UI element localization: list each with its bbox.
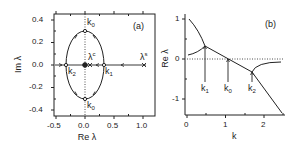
arrow-icon <box>74 92 77 96</box>
panel-b-upper-branch <box>189 19 205 46</box>
k-subscript: 2 <box>253 88 256 94</box>
panel-b-xtick-0: 0 <box>184 121 188 129</box>
point-k0-top <box>83 29 86 32</box>
panel-b-xtick-2: 2 <box>261 121 265 129</box>
arrow-icon <box>93 92 96 96</box>
k-subscript: 1 <box>110 71 113 77</box>
panel-b-xtick-1: 1 <box>223 121 227 129</box>
panel-a-xtick-2: 0.5 <box>107 122 118 130</box>
k-subscript: 1 <box>206 88 209 94</box>
panel-b-ytick-0: 1 <box>175 15 179 23</box>
panel-a-k1-label: k1 <box>105 67 113 77</box>
panel-a-xtick-3: 1.0 <box>136 122 147 130</box>
panel-b-lower-branch <box>188 46 205 55</box>
panel-a-ytick-2: 0.0 <box>32 61 43 69</box>
k-subscript: 0 <box>92 22 95 28</box>
panel-b-ylabel: Re λ <box>161 49 170 68</box>
lambda-superscript: s <box>145 51 148 57</box>
k-subscript: 0 <box>92 105 95 111</box>
panel-a-lambda-s-label: λs <box>140 51 148 62</box>
panel-a-xlabel: Re λ <box>78 133 97 142</box>
panel-b-xlabel: k <box>232 132 237 141</box>
panel-a-xtick-0: -0.5 <box>47 122 61 130</box>
panel-b-ytick-1: 0 <box>175 55 179 63</box>
panel-b-right-upper-branch <box>252 62 281 72</box>
panel-a-ytick-4: -0.4 <box>29 106 43 114</box>
panel-a-ylabel: Im λ <box>14 56 23 73</box>
panel-b-label: (b) <box>265 20 276 29</box>
point-center <box>83 63 88 68</box>
panel-a-k0-top-label: k0 <box>87 18 95 28</box>
panel-a-lambda-c-label: λc <box>88 51 96 62</box>
panel-a-xtick-1: 0.0 <box>78 122 89 130</box>
k-subscript: 2 <box>73 71 76 77</box>
panel-b-ytick-2: -1 <box>172 95 179 103</box>
arrow-icon <box>74 35 77 39</box>
panel-a-ytick-0: 0.4 <box>32 16 43 24</box>
panel-b-plot <box>182 14 285 118</box>
panel-a-k2-label: k2 <box>68 67 76 77</box>
lambda-superscript: c <box>93 51 96 57</box>
panel-b-k1-label: k1 <box>201 84 209 94</box>
figure <box>0 0 298 151</box>
panel-a-ytick-3: -0.2 <box>29 83 43 91</box>
panel-a-k0-bottom-label: k0 <box>87 101 95 111</box>
panel-b-k0-label: k0 <box>224 84 232 94</box>
k-subscript: 0 <box>229 88 232 94</box>
panel-a-label: (a) <box>133 22 144 31</box>
panel-b-right-lower-branch <box>252 72 282 113</box>
panel-a-ytick-1: 0.2 <box>32 38 43 46</box>
panel-b-k2-label: k2 <box>248 84 256 94</box>
arrow-icon <box>93 35 96 39</box>
